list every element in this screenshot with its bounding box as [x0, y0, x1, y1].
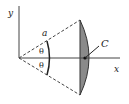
radius-label: a [42, 28, 47, 38]
segment-diagram: y x a θ θ C [0, 0, 129, 104]
angle-label-lower: θ [39, 61, 44, 70]
angle-label-upper: θ [39, 47, 44, 56]
x-axis-label: x [114, 64, 119, 74]
centroid-label: C [101, 38, 109, 49]
y-axis-label: y [7, 8, 14, 18]
